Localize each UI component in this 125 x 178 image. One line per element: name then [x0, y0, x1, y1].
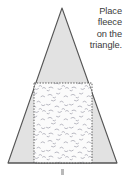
fleece-rectangle-fill: [34, 83, 92, 163]
instruction-line-2: fleece: [66, 17, 122, 28]
instruction-line-3: on the: [66, 29, 122, 40]
instruction-line-1: Place: [66, 6, 122, 17]
instruction-line-4: triangle.: [66, 40, 122, 51]
figure-caption-mark: [61, 169, 64, 175]
instruction-caption: Place fleece on the triangle.: [66, 6, 122, 51]
fleece-triangle-figure: Place fleece on the triangle.: [0, 0, 125, 178]
